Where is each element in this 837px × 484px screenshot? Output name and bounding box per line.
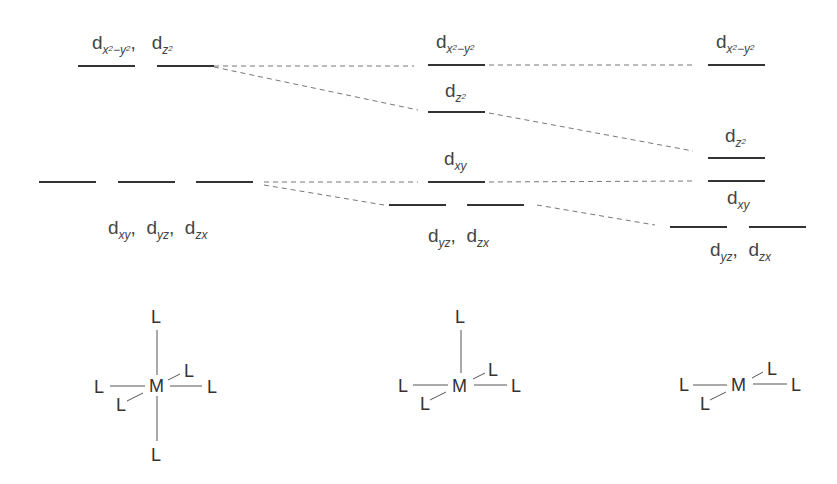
- label-oct-dx2y2-dz2: dx2−y2, dz2: [92, 33, 173, 52]
- label-oct-t2g: dxy, dyz, dzx: [108, 218, 207, 237]
- label-sp-dyz-dzx: dyz, dzx: [428, 226, 489, 245]
- label-sp-dxy: dxy: [444, 149, 467, 168]
- correlation-line: [489, 181, 693, 182]
- correlation-line: [489, 113, 693, 151]
- ligand-back: L: [184, 362, 194, 380]
- label-spl-dz2: dz2: [725, 126, 746, 145]
- bond-back: [752, 372, 763, 378]
- ligand-back: L: [767, 360, 777, 378]
- bond-front: [127, 393, 143, 401]
- ligand-left: L: [94, 378, 104, 396]
- ligand-top: L: [151, 308, 161, 326]
- label-spl-dx2y2: dx2−y2: [716, 32, 755, 51]
- metal-center: M: [149, 377, 164, 395]
- ligand-top: L: [455, 308, 465, 326]
- ligand-right: L: [791, 376, 801, 394]
- metal-center: M: [731, 376, 746, 394]
- bond-front: [710, 392, 726, 400]
- metal-center: M: [452, 377, 467, 395]
- bond-back: [473, 373, 485, 379]
- ligand-right: L: [207, 378, 217, 396]
- label-sp-dx2y2: dx2−y2: [436, 32, 475, 51]
- ligand-bottom: L: [151, 446, 161, 464]
- ligand-front: L: [420, 395, 430, 413]
- correlation-line: [214, 67, 418, 110]
- ligand-left: L: [679, 376, 689, 394]
- correlation-line: [264, 185, 384, 205]
- ligand-front: L: [700, 395, 710, 413]
- correlation-line: [537, 205, 655, 225]
- label-spl-dyz-dzx: dyz, dzx: [710, 240, 771, 259]
- ligand-back: L: [488, 361, 498, 379]
- bond-front: [430, 392, 446, 400]
- bond-back: [168, 374, 180, 380]
- label-sp-dz2: dz2: [445, 81, 466, 100]
- ligand-left: L: [398, 377, 408, 395]
- ligand-front: L: [116, 396, 126, 414]
- ligand-right: L: [511, 377, 521, 395]
- label-spl-dxy: dxy: [727, 188, 750, 207]
